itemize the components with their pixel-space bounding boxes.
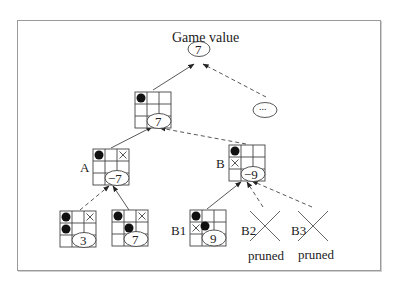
edge-B-level1: [160, 128, 246, 144]
board-A-child1: [60, 211, 96, 248]
board-B1: [190, 210, 226, 246]
game-value-title: Game value: [172, 31, 239, 45]
edge-B1-B: [207, 182, 241, 209]
ellipsis-label: ...: [259, 102, 267, 112]
root-value: 7: [195, 43, 202, 56]
stone-icon: [95, 151, 104, 160]
A-child2-value: 7: [132, 233, 139, 246]
edges: [80, 64, 312, 210]
stone-icon: [201, 222, 210, 231]
node-A-label: A: [80, 161, 89, 174]
edge-A1-A: [80, 186, 109, 210]
board-A-child2: [112, 210, 148, 247]
stone-icon: [62, 213, 71, 222]
edge-A-level1: [111, 127, 152, 148]
edge-ellipsis-root: [203, 64, 266, 97]
edge-B2-B: [247, 182, 263, 207]
node-B1-label: B1: [171, 224, 186, 237]
node-A-value: −7: [108, 172, 122, 185]
edge-B3-B: [252, 181, 312, 207]
node-B-label: B: [216, 157, 225, 170]
stone-icon: [192, 212, 201, 221]
node-B3-status: pruned: [298, 248, 334, 261]
A-child1-value: 3: [80, 234, 87, 247]
node-B1-value: 9: [210, 232, 217, 245]
node-B-value: −9: [244, 168, 258, 181]
stone-icon: [137, 94, 146, 103]
node-B2-label: B2: [241, 224, 256, 237]
node-B2-status: pruned: [248, 249, 284, 262]
board-level1: [135, 92, 171, 129]
stone-icon: [114, 212, 123, 221]
edge-A2-A: [113, 186, 129, 210]
stone-icon: [62, 225, 71, 234]
node-B3-label: B3: [291, 224, 306, 237]
edge-level1-root: [153, 64, 194, 90]
stone-icon: [231, 147, 240, 156]
level1-value: 7: [155, 115, 162, 128]
